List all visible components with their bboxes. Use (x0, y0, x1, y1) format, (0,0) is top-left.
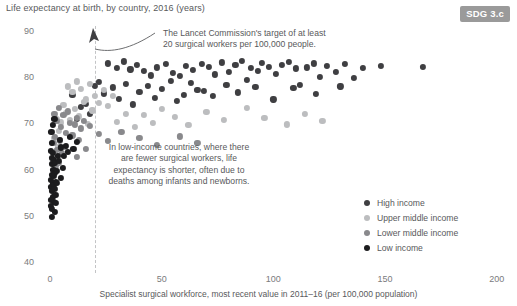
scatter-point (286, 59, 292, 65)
scatter-point (132, 124, 138, 130)
scatter-point (168, 78, 174, 84)
scatter-point (176, 133, 182, 139)
scatter-point (136, 88, 142, 94)
legend-item[interactable]: Lower middle income (364, 225, 458, 240)
scatter-point (134, 62, 140, 68)
target-annotation-line1: The Lancet Commission's target of at lea… (163, 28, 326, 39)
scatter-point (74, 78, 80, 84)
scatter-point (232, 62, 238, 68)
scatter-point (248, 65, 254, 71)
scatter-point (259, 60, 265, 66)
scatter-point (159, 86, 165, 92)
scatter-point (174, 98, 180, 104)
legend-item-label: High income (377, 198, 425, 208)
scatter-point (210, 93, 216, 99)
low-income-annotation: In low-income countries, where there are… (108, 142, 250, 188)
scatter-point (58, 175, 64, 181)
scatter-point (235, 89, 241, 95)
scatter-point (70, 146, 76, 152)
scatter-point (252, 84, 258, 90)
x-axis-tick: 150 (365, 274, 405, 284)
scatter-point (83, 146, 89, 152)
target-annotation-line2: 20 surgical workers per 100,000 people. (163, 39, 326, 50)
scatter-point (96, 130, 102, 136)
scatter-point (212, 71, 218, 77)
scatter-point (324, 63, 330, 69)
scatter-point (78, 104, 84, 110)
scatter-point (297, 82, 303, 88)
legend-item-label: Lower middle income (377, 228, 458, 238)
scatter-point (123, 111, 129, 117)
threshold-line (95, 26, 96, 273)
scatter-point (377, 63, 383, 69)
scatter-point (188, 80, 194, 86)
target-annotation: The Lancet Commission's target of at lea… (163, 28, 326, 51)
legend-item[interactable]: Upper middle income (364, 210, 458, 225)
y-axis-tick: 70 (8, 118, 34, 128)
x-axis-label: Specialist surgical workforce, most rece… (0, 289, 517, 299)
scatter-point (49, 214, 55, 220)
scatter-point (201, 88, 207, 94)
scatter-point (105, 103, 111, 109)
x-axis-tick: 0 (30, 274, 70, 284)
scatter-point (226, 69, 232, 75)
scatter-point (270, 96, 276, 102)
y-axis-tick: 50 (8, 211, 34, 221)
scatter-point (74, 154, 80, 160)
x-axis-tick: 100 (253, 274, 293, 284)
scatter-point (118, 129, 124, 135)
scatter-point (243, 77, 249, 83)
scatter-point (127, 66, 133, 72)
legend-item-label: Low income (377, 243, 423, 253)
scatter-point (223, 81, 229, 87)
scatter-point (159, 106, 165, 112)
scatter-point (109, 93, 115, 99)
scatter-point (302, 111, 308, 117)
y-axis-tick: 60 (8, 165, 34, 175)
scatter-point (114, 118, 120, 124)
scatter-point (96, 100, 102, 106)
legend-swatch-icon (364, 245, 370, 251)
scatter-point (71, 106, 77, 112)
curved-arrow-icon (83, 27, 158, 57)
scatter-point (63, 142, 69, 148)
scatter-point (181, 92, 187, 98)
scatter-point (150, 120, 156, 126)
scatter-point (219, 59, 225, 65)
scatter-point (170, 69, 176, 75)
legend-swatch-icon (364, 230, 370, 236)
x-axis-tick: 200 (477, 274, 517, 284)
scatter-point (313, 91, 319, 97)
scatter-point (50, 122, 56, 128)
scatter-point (279, 62, 285, 68)
scatter-point (87, 123, 93, 129)
y-axis-tick: 40 (8, 257, 34, 267)
legend-item[interactable]: Low income (364, 240, 458, 255)
legend-swatch-icon (364, 200, 370, 206)
scatter-point (310, 60, 316, 66)
scatter-point (163, 61, 169, 67)
scatter-point (130, 101, 136, 107)
scatter-point (239, 58, 245, 64)
scatter-point (59, 165, 65, 171)
scatter-point (114, 65, 120, 71)
scatter-point (109, 84, 115, 90)
scatter-point (176, 73, 182, 79)
scatter-point (221, 117, 227, 123)
scatter-point (78, 125, 84, 131)
scatter-point (261, 115, 267, 121)
scatter-point (185, 122, 191, 128)
scatter-point (172, 114, 178, 120)
scatter-point (203, 109, 209, 115)
scatter-point (272, 70, 278, 76)
legend-item[interactable]: High income (364, 195, 458, 210)
scatter-point (360, 65, 366, 71)
scatter-point (293, 65, 299, 71)
scatter-point (304, 64, 310, 70)
scatter-point (290, 85, 296, 91)
scatter-point (342, 61, 348, 67)
scatter-point (333, 69, 339, 75)
scatter-point (243, 105, 249, 111)
scatter-point (255, 68, 261, 74)
scatter-point (199, 61, 205, 67)
